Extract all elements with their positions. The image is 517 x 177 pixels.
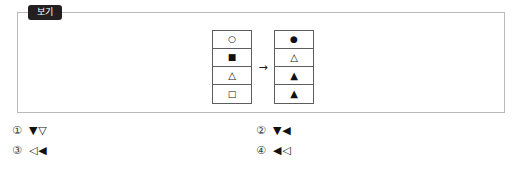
choice-option-4[interactable]: ④ ◀◁ bbox=[250, 140, 500, 160]
choice-answer: ▼▽ bbox=[29, 125, 48, 136]
right-table-row: ● bbox=[275, 31, 313, 49]
answer-choices: ① ▼▽ ② ▼◀ ③ ◁◀ ④ ◀◁ bbox=[0, 120, 517, 160]
left-table-row: △ bbox=[213, 67, 251, 85]
choice-option-1[interactable]: ① ▼▽ bbox=[0, 120, 250, 140]
shape-transformation-diagram: ○ ■ △ □ → ● △ ▲ ▲ bbox=[212, 30, 314, 104]
choice-number: ① bbox=[12, 125, 22, 136]
black-square-icon: ■ bbox=[228, 53, 237, 62]
choice-number: ③ bbox=[12, 145, 22, 156]
choice-answer: ▼◀ bbox=[273, 125, 292, 136]
white-up-triangle-icon: △ bbox=[228, 71, 236, 81]
example-panel-badge: 보기 bbox=[28, 5, 62, 20]
black-up-triangle-icon: ▲ bbox=[290, 89, 298, 99]
choice-number: ④ bbox=[256, 145, 266, 156]
choice-row: ③ ◁◀ ④ ◀◁ bbox=[0, 140, 517, 160]
right-table-row: △ bbox=[275, 49, 313, 67]
choice-row: ① ▼▽ ② ▼◀ bbox=[0, 120, 517, 140]
left-table-row: □ bbox=[213, 85, 251, 103]
right-arrow-icon: → bbox=[252, 62, 274, 73]
black-up-triangle-icon: ▲ bbox=[290, 71, 298, 81]
choice-option-3[interactable]: ③ ◁◀ bbox=[0, 140, 250, 160]
choice-answer: ◁◀ bbox=[29, 145, 48, 156]
left-shape-table: ○ ■ △ □ bbox=[212, 30, 252, 104]
white-square-icon: □ bbox=[228, 90, 237, 99]
right-table-row: ▲ bbox=[275, 85, 313, 103]
choice-option-2[interactable]: ② ▼◀ bbox=[250, 120, 500, 140]
white-up-triangle-icon: △ bbox=[290, 53, 298, 63]
white-circle-icon: ○ bbox=[228, 35, 236, 44]
black-circle-icon: ● bbox=[290, 35, 298, 44]
left-table-row: ■ bbox=[213, 49, 251, 67]
choice-number: ② bbox=[256, 125, 266, 136]
right-table-row: ▲ bbox=[275, 67, 313, 85]
choice-answer: ◀◁ bbox=[273, 145, 292, 156]
left-table-row: ○ bbox=[213, 31, 251, 49]
right-shape-table: ● △ ▲ ▲ bbox=[274, 30, 314, 104]
